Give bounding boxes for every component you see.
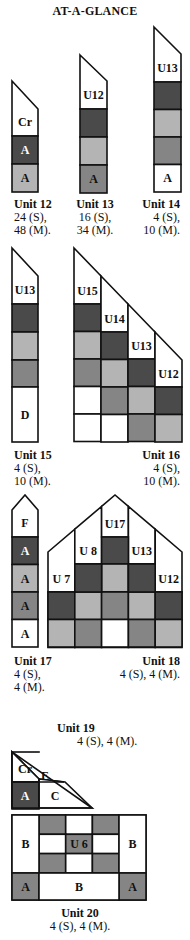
unit16-grid-cell xyxy=(101,332,128,360)
unit15-label-0: U13 xyxy=(15,283,36,297)
unit14-label-0: U13 xyxy=(157,61,178,75)
unit20-caption: Unit 20 4 (S), 4 (M). xyxy=(30,907,130,933)
unit20-grid-cell xyxy=(66,815,93,834)
unit16-grid-cell xyxy=(128,387,155,415)
unit15-cell-1 xyxy=(12,304,38,332)
unit18-top-label-1: U 8 xyxy=(79,544,97,558)
unit20-label-a-left: A xyxy=(21,880,30,894)
unit16-grid-cell xyxy=(74,359,101,387)
unit19-label-a: A xyxy=(21,789,30,803)
unit13-cell-2 xyxy=(80,137,107,165)
unit14-cell-2 xyxy=(154,110,181,138)
unit15-label-4: D xyxy=(21,408,30,422)
unit16-grid-cell xyxy=(155,387,182,415)
unit13-label-3: A xyxy=(89,172,98,186)
unit20-label-b-bottom: B xyxy=(75,880,83,894)
unit18-grid-cell xyxy=(102,564,129,592)
unit17-label-0: F xyxy=(21,516,28,530)
unit18-grid-cell xyxy=(128,620,155,648)
unit16-grid-cell xyxy=(101,415,128,443)
unit18-caption: Unit 18 4 (S), 4 (M). xyxy=(100,655,180,681)
unit16-grid-cell xyxy=(74,414,101,442)
unit18-grid-cell xyxy=(102,592,129,620)
unit13-caption: Unit 13 16 (S), 34 (M). xyxy=(72,198,118,237)
unit14-caption: Unit 14 4 (S), 10 (M). xyxy=(130,198,180,237)
unit18-grid-cell xyxy=(102,620,129,648)
unit16-grid-cell xyxy=(101,387,128,415)
unit16-grid-cell xyxy=(74,304,101,332)
unit16-grid-cell xyxy=(74,387,101,415)
unit17-label-3: A xyxy=(21,599,30,613)
unit16-grid-cell xyxy=(101,360,128,388)
unit20-grid-cell xyxy=(92,834,119,853)
unit14-cell-1 xyxy=(154,82,181,110)
unit14-cell-3 xyxy=(154,137,181,165)
unit18-top-label-3: U13 xyxy=(131,544,152,558)
unit18-top-label-0: U 7 xyxy=(53,572,71,586)
unit20-grid-cell xyxy=(92,854,119,873)
unit12-caption: Unit 12 24 (S), 48 (M). xyxy=(14,198,52,237)
unit16-grid-cell xyxy=(74,332,101,360)
unit18-grid-cell xyxy=(75,592,102,620)
unit19-label-e: E xyxy=(41,769,49,783)
unit16-top-label-0: U15 xyxy=(77,284,98,298)
unit16-grid-cell xyxy=(128,359,155,387)
unit18-grid-cell xyxy=(48,592,75,620)
unit17-label-2: A xyxy=(21,572,30,586)
unit13-cell-1 xyxy=(80,109,107,137)
unit20-grid-cell xyxy=(92,815,119,834)
unit15-caption: Unit 15 4 (S), 10 (M). xyxy=(14,449,52,488)
unit20-label-a-right: A xyxy=(128,880,137,894)
unit14-label-4: A xyxy=(163,171,172,185)
unit20-grid-cell xyxy=(39,854,66,873)
unit18-grid-cell xyxy=(75,620,102,648)
unit20-grid-cell xyxy=(66,854,93,873)
unit12-label-0: Cr xyxy=(18,115,33,129)
unit19-label-cr: Cr xyxy=(18,762,33,776)
unit16-grid-cell xyxy=(128,414,155,442)
unit18-top-label-2: U17 xyxy=(105,517,126,531)
unit18-top-label-4: U12 xyxy=(158,572,179,586)
unit19-label-c: C xyxy=(51,789,60,803)
unit18-grid-cell xyxy=(128,564,155,592)
unit17-label-4: A xyxy=(21,627,30,641)
unit12-label-2: A xyxy=(21,171,30,185)
unit16-caption: Unit 16 4 (S), 10 (M). xyxy=(120,449,180,488)
unit20-label-b-right: B xyxy=(128,837,136,851)
unit16-top-label-1: U14 xyxy=(104,312,125,326)
unit19-caption: Unit 19 4 (S), 4 (M). xyxy=(57,722,137,748)
unit18-grid-cell xyxy=(155,592,182,620)
unit18-grid-cell xyxy=(102,537,129,564)
unit17-caption: Unit 17 4 (S), 4 (M). xyxy=(14,655,52,694)
unit20-grid-cell xyxy=(39,834,66,853)
unit15-cell-3 xyxy=(12,360,38,387)
unit18-grid-cell xyxy=(48,620,75,648)
unit20-label-b-left: B xyxy=(21,837,29,851)
unit19-cell-c xyxy=(39,779,92,808)
unit17-label-1: A xyxy=(21,544,30,558)
unit13-label-0: U12 xyxy=(83,88,104,102)
unit20-grid-cell xyxy=(39,815,66,834)
unit15-cell-2 xyxy=(12,332,38,360)
unit16-top-label-2: U13 xyxy=(131,339,152,353)
unit20-label-u6: U 6 xyxy=(70,837,88,851)
unit16-grid-cell xyxy=(155,415,182,443)
unit16-top-label-3: U12 xyxy=(158,367,179,381)
unit18-grid-cell xyxy=(128,592,155,620)
unit12-label-1: A xyxy=(21,143,30,157)
unit18-grid-cell xyxy=(75,564,102,592)
unit18-grid-cell xyxy=(155,620,182,648)
